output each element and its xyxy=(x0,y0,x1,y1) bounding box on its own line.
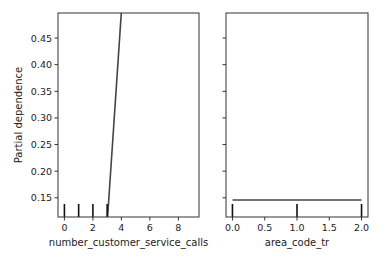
panel-number-customer-service-calls: 024680.150.200.250.300.350.400.45number_… xyxy=(31,11,208,249)
axes-frame xyxy=(226,13,368,217)
y-tick-label: 0.20 xyxy=(31,166,52,177)
x-tick-label: 0 xyxy=(61,222,67,233)
y-tick-label: 0.15 xyxy=(31,192,52,203)
x-tick-label: 8 xyxy=(175,222,181,233)
y-tick-label: 0.40 xyxy=(31,59,52,70)
x-tick-label: 2 xyxy=(90,222,96,233)
y-tick-label: 0.45 xyxy=(31,33,52,44)
y-axis-label: Partial dependence xyxy=(13,67,24,163)
x-tick-label: 6 xyxy=(147,222,153,233)
x-tick-label: 2.0 xyxy=(354,222,369,233)
pd-line xyxy=(64,11,192,224)
partial-dependence-figure: 024680.150.200.250.300.350.400.45number_… xyxy=(0,0,386,262)
y-tick-label: 0.30 xyxy=(31,112,52,123)
x-tick-label: 0.0 xyxy=(225,222,240,233)
x-tick-label: 1.0 xyxy=(289,222,304,233)
x-tick-label: 1.5 xyxy=(322,222,337,233)
y-tick-label: 0.25 xyxy=(31,139,52,150)
panel-area-code-tr: 0.00.51.01.52.0area_code_tr xyxy=(223,13,370,249)
axes-frame xyxy=(58,13,199,217)
y-tick-label: 0.35 xyxy=(31,86,52,97)
x-tick-label: 0.5 xyxy=(257,222,272,233)
x-tick-label: 4 xyxy=(118,222,124,233)
x-axis-label: area_code_tr xyxy=(265,237,330,249)
x-axis-label: number_customer_service_calls xyxy=(49,237,208,249)
